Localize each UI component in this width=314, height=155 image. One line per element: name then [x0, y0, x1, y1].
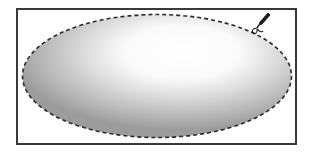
elliptical-selection[interactable] — [23, 15, 292, 138]
lasso-pen-cursor-icon — [252, 13, 270, 34]
canvas-stage[interactable] — [0, 0, 314, 155]
